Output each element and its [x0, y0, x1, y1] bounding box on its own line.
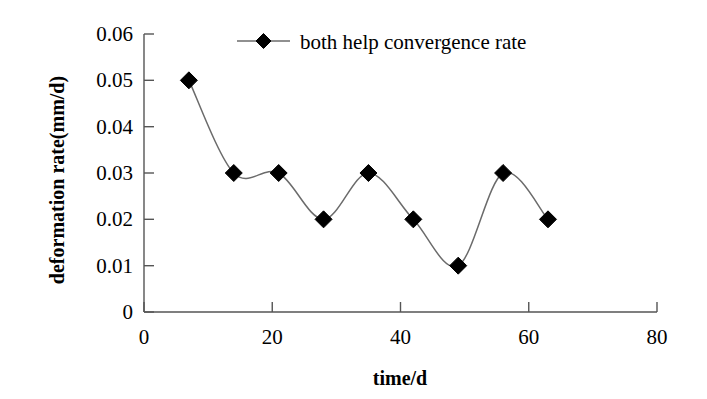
x-tick-label-0: 0: [139, 325, 150, 349]
y-tick-label-0.04: 0.04: [96, 115, 133, 139]
x-tick-label-20: 20: [262, 325, 283, 349]
deformation-rate-line-chart: 0.06 0.05 0.04 0.03 0.02 0.01 0 0 20 40 …: [0, 0, 707, 399]
y-axis-title: deformation rate(mm/d): [46, 76, 69, 284]
x-tick-label-80: 80: [647, 325, 668, 349]
y-tick-label-0.05: 0.05: [96, 68, 133, 92]
x-tick-label-60: 60: [518, 325, 539, 349]
y-tick-label-0.06: 0.06: [96, 22, 133, 46]
chart-page: 0.06 0.05 0.04 0.03 0.02 0.01 0 0 20 40 …: [0, 0, 707, 399]
x-axis-title: time/d: [373, 367, 427, 389]
y-tick-label-0: 0: [123, 300, 134, 324]
y-tick-label-0.02: 0.02: [96, 207, 133, 231]
y-tick-label-0.03: 0.03: [96, 161, 133, 185]
x-tick-label-40: 40: [390, 325, 411, 349]
y-tick-label-0.01: 0.01: [96, 254, 133, 278]
legend-label-0: both help convergence rate: [300, 30, 526, 54]
chart-background: [0, 0, 707, 399]
